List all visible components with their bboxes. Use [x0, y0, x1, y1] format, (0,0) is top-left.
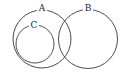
set-b-label: B	[85, 3, 92, 13]
set-b-circle	[59, 10, 118, 69]
set-c-circle	[16, 25, 54, 63]
set-a-label: A	[38, 3, 46, 13]
set-c-label: C	[31, 20, 38, 30]
set-a-circle	[13, 10, 71, 68]
venn-diagram: A B C	[0, 0, 123, 75]
